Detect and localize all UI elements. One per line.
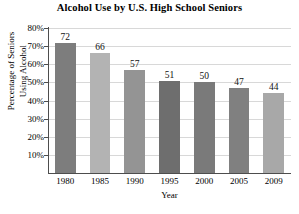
y-tick-mark	[44, 137, 48, 138]
x-tick-label: 1985	[83, 176, 118, 187]
y-tick-mark	[44, 28, 48, 29]
y-tick-label: 10%	[14, 150, 44, 160]
bar-slot: 57	[124, 28, 145, 173]
bar-value-label: 44	[251, 82, 296, 92]
y-tick-mark	[44, 82, 48, 83]
plot-area: 72665751504744	[48, 28, 291, 173]
x-tick-label: 2005	[222, 176, 257, 187]
chart-title: Alcohol Use by U.S. High School Seniors	[0, 2, 299, 13]
bar-slot: 51	[159, 28, 180, 173]
x-tick-label: 2000	[187, 176, 222, 187]
x-tick-label: 1980	[48, 176, 83, 187]
y-tick-mark	[44, 155, 48, 156]
bar[interactable]	[194, 82, 215, 173]
bar[interactable]	[90, 53, 111, 173]
y-tick-mark	[44, 64, 48, 65]
bar-slot: 66	[90, 28, 111, 173]
x-tick-label: 1990	[117, 176, 152, 187]
bar-slot: 50	[194, 28, 215, 173]
bar-value-label: 57	[112, 59, 157, 69]
y-tick-mark	[44, 46, 48, 47]
y-tick-mark	[44, 101, 48, 102]
x-axis-title: Year	[48, 190, 291, 200]
bar[interactable]	[263, 93, 284, 173]
bar[interactable]	[124, 70, 145, 173]
x-axis-line	[48, 173, 291, 174]
bar-slot: 44	[263, 28, 284, 173]
x-tick-label: 1995	[152, 176, 187, 187]
bar-slot: 47	[229, 28, 250, 173]
y-tick-label: 30%	[14, 114, 44, 124]
bar-chart-figure: Alcohol Use by U.S. High School Seniors …	[0, 0, 299, 214]
bar[interactable]	[229, 88, 250, 173]
bar-value-label: 66	[78, 42, 123, 52]
y-tick-label: 20%	[14, 132, 44, 142]
y-tick-label: 40%	[14, 96, 44, 106]
y-tick-label: 70%	[14, 41, 44, 51]
y-tick-mark	[44, 119, 48, 120]
bar-series: 72665751504744	[48, 28, 291, 173]
bar[interactable]	[159, 81, 180, 173]
x-axis-tick-labels: 1980198519901995200020052009	[48, 176, 291, 189]
x-tick-label: 2009	[256, 176, 291, 187]
y-tick-label: 60%	[14, 59, 44, 69]
bar[interactable]	[55, 43, 76, 174]
y-axis-tick-labels: 80%70%60%50%40%30%20%10%	[14, 22, 44, 172]
y-tick-label: 80%	[14, 23, 44, 33]
bar-value-label: 72	[43, 32, 88, 42]
y-tick-label: 50%	[14, 77, 44, 87]
bar-slot: 72	[55, 28, 76, 173]
